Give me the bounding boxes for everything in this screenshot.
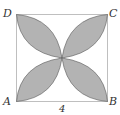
vertex-label-c: C [109,7,118,20]
petal-c [62,15,108,59]
side-length-label: 4 [58,103,65,114]
petal-a [17,58,63,102]
petal-d [17,15,63,59]
diagram-canvas: D C A B 4 [0,0,120,115]
vertex-label-b: B [108,95,117,108]
petal-b [62,58,108,102]
vertex-label-d: D [2,7,12,20]
vertex-label-a: A [2,95,11,108]
